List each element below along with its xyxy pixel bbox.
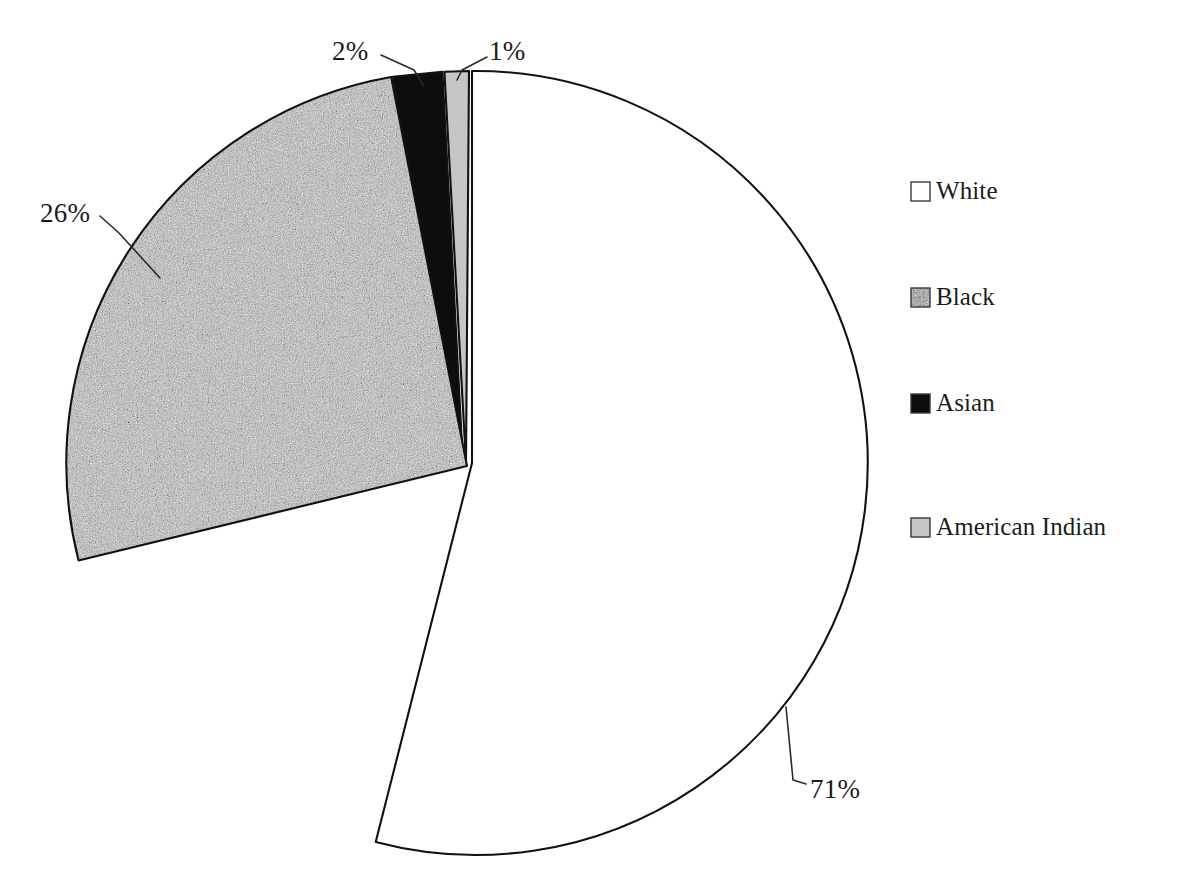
legend-label-white: White bbox=[936, 177, 998, 204]
speckled-swatch-icon bbox=[911, 288, 930, 307]
legend-item-american-indian[interactable]: American Indian bbox=[911, 513, 1107, 540]
pie-chart-figure: 2% 1% 26% 71% White Black Asian bbox=[0, 0, 1178, 883]
pie-chart-canvas: 2% 1% 26% 71% White Black Asian bbox=[0, 0, 1178, 883]
data-label-american-indian: 1% bbox=[489, 36, 525, 66]
black-swatch-icon bbox=[911, 394, 930, 413]
legend: White Black Asian American Indian bbox=[911, 177, 1107, 540]
leader-line-71-percent bbox=[786, 707, 806, 784]
data-label-white: 71% bbox=[810, 774, 860, 804]
legend-label-asian: Asian bbox=[936, 389, 995, 416]
legend-item-black[interactable]: Black bbox=[911, 283, 995, 310]
legend-item-white[interactable]: White bbox=[911, 177, 998, 204]
legend-item-asian[interactable]: Asian bbox=[911, 389, 995, 416]
data-label-black: 26% bbox=[40, 198, 90, 228]
data-label-asian: 2% bbox=[332, 36, 368, 66]
legend-label-black: Black bbox=[936, 283, 995, 310]
white-swatch-icon bbox=[911, 182, 930, 201]
legend-label-american-indian: American Indian bbox=[936, 513, 1107, 540]
gray-swatch-icon bbox=[911, 518, 930, 537]
